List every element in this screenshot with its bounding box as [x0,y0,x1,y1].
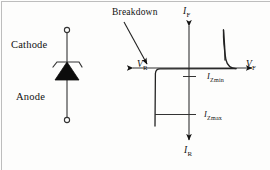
figure-graphics [0,0,270,170]
diode-triangle [55,62,79,80]
breakdown-arrow [124,22,147,64]
forward-current-axis-label: IF [183,7,190,19]
figure-root: Cathode Anode Breakdown IF IR VR VF IZmi… [0,0,270,170]
cathode-label: Cathode [11,40,47,51]
cathode-terminal-node [64,27,69,32]
reverse-current-axis-label: IR [184,146,192,158]
anode-terminal-node [64,117,69,122]
forward-voltage-subscript: F [252,64,256,71]
iv-characteristic-graph [124,22,252,140]
zener-diode-symbol [53,27,82,122]
forward-current-subscript: F [186,11,190,18]
anode-label: Anode [16,92,45,103]
forward-voltage-axis-label: VF [246,60,256,72]
reverse-voltage-subscript: R [143,64,148,71]
reverse-voltage-axis-label: VR [137,60,148,72]
breakdown-label: Breakdown [112,8,158,18]
izmin-subscript: Zmin [210,77,224,83]
izmin-label: IZmin [207,72,224,83]
izmax-label: IZmax [204,110,222,121]
izmax-subscript: Zmax [207,115,222,121]
reverse-current-subscript: R [187,150,192,157]
